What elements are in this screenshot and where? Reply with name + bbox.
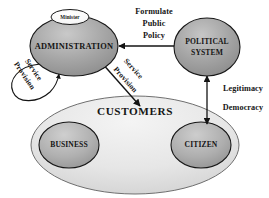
legitimacy-label: Legitimacy xyxy=(223,84,264,93)
node-administration[interactable]: ADMINISTRATION xyxy=(30,16,118,76)
formulate-policy-label-line3: Policy xyxy=(143,31,166,40)
customers-label: CUSTOMERS xyxy=(97,105,173,117)
node-minister[interactable]: Minister xyxy=(51,10,89,25)
node-business[interactable]: BUSINESS xyxy=(39,122,99,168)
citizen-label: CITIZEN xyxy=(185,140,218,149)
administration-label: ADMINISTRATION xyxy=(35,42,114,51)
formulate-policy-label-line2: Public xyxy=(143,19,166,28)
node-political-system[interactable]: POLITICAL SYSTEM xyxy=(174,18,240,76)
business-label: BUSINESS xyxy=(50,140,88,149)
political-system-label-line1: POLITICAL xyxy=(185,37,229,46)
democracy-label: Democracy xyxy=(223,103,264,112)
minister-label: Minister xyxy=(60,14,80,20)
formulate-policy-label-line1: Formulate xyxy=(135,7,173,16)
political-system-label-line2: SYSTEM xyxy=(191,48,223,57)
node-citizen[interactable]: CITIZEN xyxy=(171,122,231,168)
diagram-canvas: CUSTOMERS BUSINESS CITIZEN Formulate Pub… xyxy=(0,0,269,198)
